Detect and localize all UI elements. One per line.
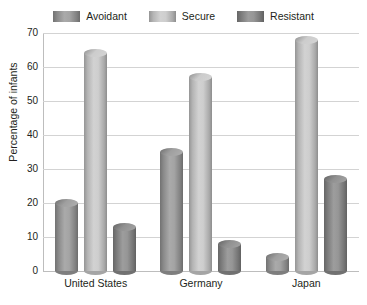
y-tick-label-70: 70 xyxy=(8,28,38,38)
legend-item-resistant: Resistant xyxy=(237,11,314,22)
legend-label-resistant: Resistant xyxy=(270,11,314,22)
bar-group-germany xyxy=(148,33,253,271)
bar-resistant-germany xyxy=(218,244,241,271)
y-tick-label-30: 30 xyxy=(8,164,38,174)
cylinder-cap xyxy=(113,223,136,231)
bar-avoidant-united-states xyxy=(55,203,78,271)
y-axis-ticks: 706050403020100 xyxy=(0,33,38,271)
cylinder-body xyxy=(295,40,318,271)
legend-swatch-avoidant xyxy=(53,11,80,22)
cylinder-body xyxy=(160,152,183,271)
bar-resistant-united-states xyxy=(113,227,136,271)
x-tick-label-united-states: United States xyxy=(43,276,148,294)
legend-label-avoidant: Avoidant xyxy=(86,11,127,22)
bar-secure-united-states xyxy=(84,53,107,271)
bar-chart: Avoidant Secure Resistant Percentage of … xyxy=(0,0,367,305)
cylinder-cap xyxy=(295,36,318,44)
legend-label-secure: Secure xyxy=(182,11,215,22)
cylinder-body xyxy=(324,179,347,271)
plot-area xyxy=(43,33,359,271)
legend-item-avoidant: Avoidant xyxy=(53,11,127,22)
bar-avoidant-japan xyxy=(266,257,289,271)
y-tick-label-60: 60 xyxy=(8,62,38,72)
cylinder-cap xyxy=(55,199,78,207)
legend-swatch-secure xyxy=(149,11,176,22)
cylinder-body xyxy=(55,203,78,271)
y-tick-label-20: 20 xyxy=(8,198,38,208)
bar-series-container xyxy=(43,33,359,271)
cylinder-body xyxy=(189,77,212,271)
y-tick-label-40: 40 xyxy=(8,130,38,140)
y-tick-label-10: 10 xyxy=(8,232,38,242)
legend-swatch-resistant xyxy=(237,11,264,22)
cylinder-body xyxy=(84,53,107,271)
legend-item-secure: Secure xyxy=(149,11,215,22)
y-tick-label-0: 0 xyxy=(8,266,38,276)
x-axis-labels: United StatesGermanyJapan xyxy=(43,276,359,294)
bar-secure-germany xyxy=(189,77,212,271)
bar-resistant-japan xyxy=(324,179,347,271)
bar-avoidant-germany xyxy=(160,152,183,271)
cylinder-cap xyxy=(218,240,241,248)
cylinder-body xyxy=(113,227,136,271)
bar-group-united-states xyxy=(43,33,148,271)
bar-secure-japan xyxy=(295,40,318,271)
y-tick-label-50: 50 xyxy=(8,96,38,106)
x-tick-label-germany: Germany xyxy=(148,276,253,294)
chart-legend: Avoidant Secure Resistant xyxy=(0,6,367,26)
x-tick-label-japan: Japan xyxy=(254,276,359,294)
bar-group-japan xyxy=(254,33,359,271)
cylinder-body xyxy=(218,244,241,271)
